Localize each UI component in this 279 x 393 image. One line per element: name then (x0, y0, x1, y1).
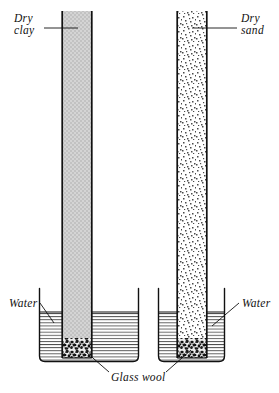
diagram-canvas: Dry clay Dry sand Water Water Glass wool (0, 0, 279, 393)
right-assembly-dry-sand (159, 11, 225, 362)
dry-sand-label-line2: sand (241, 24, 264, 36)
water-right-label: Water (242, 297, 271, 309)
water-left-label: Water (9, 297, 38, 309)
dry-sand-fill (178, 11, 206, 338)
capillary-rise-diagram: Dry clay Dry sand Water Water Glass wool (0, 0, 279, 393)
glass-wool-plug-right (178, 338, 206, 358)
dry-clay-label-line2: clay (14, 24, 35, 37)
glass-wool-label: Glass wool (111, 371, 165, 383)
glass-wool-plug-left (63, 338, 91, 358)
left-assembly-dry-clay (40, 11, 139, 362)
dry-clay-fill (63, 11, 91, 338)
